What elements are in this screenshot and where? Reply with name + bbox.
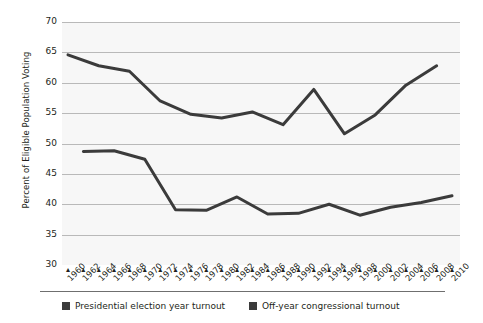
chart-figure: Percent of Eligible Population Voting 30… (0, 0, 483, 323)
y-axis-tick-label: 45 (31, 168, 57, 178)
line-presidential-turnout (68, 55, 437, 134)
y-axis-title: Percent of Eligible Population Voting (21, 30, 31, 230)
y-axis-tick-label: 35 (31, 229, 57, 239)
y-axis-tick-label: 50 (31, 138, 57, 148)
legend-swatch-presidential (62, 302, 70, 310)
data-series-layer (62, 22, 460, 265)
y-axis-tick-label: 60 (31, 77, 57, 87)
y-axis-tick-label: 65 (31, 46, 57, 56)
y-axis-tick-label: 70 (31, 16, 57, 26)
legend-divider (40, 291, 445, 292)
y-axis-tick-label: 55 (31, 107, 57, 117)
line-congressional-turnout (83, 151, 452, 215)
legend-label-congressional: Off-year congressional turnout (262, 301, 399, 311)
legend-item-congressional: Off-year congressional turnout (249, 301, 399, 311)
legend-swatch-congressional (249, 302, 257, 310)
y-axis-tick-label: 30 (31, 259, 57, 269)
legend-label-presidential: Presidential election year turnout (75, 301, 225, 311)
y-axis-tick-label: 40 (31, 198, 57, 208)
legend-item-presidential: Presidential election year turnout (62, 301, 225, 311)
